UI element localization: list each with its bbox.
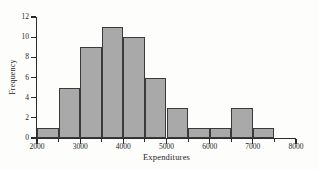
- y-tick-mark: [31, 57, 36, 58]
- histogram-bar: [145, 78, 167, 139]
- histogram-bar: [80, 47, 102, 138]
- y-tick-label: 12: [12, 13, 29, 21]
- histogram-bar: [59, 88, 81, 138]
- x-tick-label: 4000: [106, 143, 140, 151]
- histogram-figure: Frequency Expenditures 024681012 2000300…: [0, 0, 318, 170]
- y-tick-label: 2: [12, 114, 29, 122]
- x-tick-label: 2000: [20, 143, 54, 151]
- y-tick-mark: [31, 77, 36, 78]
- y-tick-label: 8: [12, 53, 29, 61]
- x-tick-label: 7000: [236, 143, 270, 151]
- x-tick-minor: [231, 139, 232, 142]
- y-tick-mark: [31, 117, 36, 118]
- histogram-bar: [231, 108, 253, 138]
- plot-area: [37, 17, 296, 138]
- x-tick-minor: [101, 139, 102, 142]
- x-tick-label: 6000: [193, 143, 227, 151]
- y-tick-label: 0: [12, 134, 29, 142]
- histogram-bar: [123, 37, 145, 138]
- x-tick-label: 8000: [279, 143, 313, 151]
- y-tick-mark: [31, 137, 36, 138]
- histogram-bar: [102, 27, 124, 138]
- histogram-bar: [188, 128, 210, 138]
- histogram-bar: [210, 128, 232, 138]
- histogram-bar: [37, 128, 59, 138]
- y-tick-label: 10: [12, 33, 29, 41]
- x-axis-title: Expenditures: [37, 152, 296, 162]
- y-tick-label: 4: [12, 94, 29, 102]
- x-tick-label: 5000: [150, 143, 184, 151]
- y-tick-mark: [31, 37, 36, 38]
- y-tick-mark: [31, 16, 36, 17]
- y-tick-label: 6: [12, 74, 29, 82]
- x-tick-minor: [274, 139, 275, 142]
- y-tick-mark: [31, 97, 36, 98]
- x-tick-minor: [144, 139, 145, 142]
- histogram-bar: [167, 108, 189, 138]
- x-tick-label: 3000: [63, 143, 97, 151]
- x-tick-minor: [188, 139, 189, 142]
- x-tick-minor: [58, 139, 59, 142]
- histogram-bar: [253, 128, 275, 138]
